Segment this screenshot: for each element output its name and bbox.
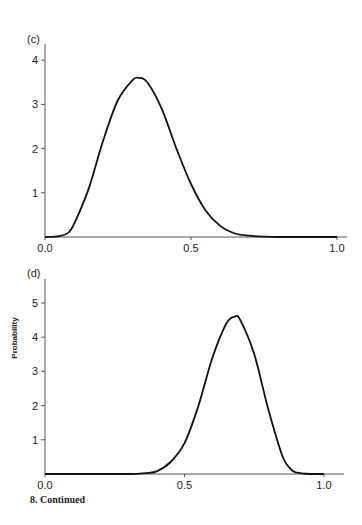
figure: (c) 1234 0.00.51.0 (d) Probability 12345…	[0, 0, 362, 525]
x-tick-label: 1.0	[316, 479, 331, 491]
y-tick-label: 2	[32, 143, 38, 155]
y-tick-label: 4	[32, 331, 38, 343]
y-tick-label: 2	[32, 400, 38, 412]
y-tick-label: 3	[32, 365, 38, 377]
y-axis-label: Probability	[10, 317, 19, 359]
y-ticks-c: 1234	[32, 54, 45, 199]
x-tick-label: 0.0	[37, 242, 52, 254]
x-ticks-d: 0.00.51.0	[37, 474, 331, 491]
x-ticks-c: 0.00.51.0	[37, 237, 344, 254]
y-tick-label: 4	[32, 54, 38, 66]
y-ticks-d: 12345	[32, 297, 45, 446]
y-tick-label: 5	[32, 297, 38, 309]
density-curve-c	[45, 77, 337, 237]
figure-caption: 8. Continued	[30, 494, 85, 505]
x-tick-label: 0.5	[177, 479, 192, 491]
chart-panel-c: (c) 1234 0.00.51.0	[27, 33, 347, 254]
density-curve-d	[45, 316, 324, 474]
x-tick-label: 0.5	[183, 242, 198, 254]
panel-label-d: (d)	[27, 267, 40, 279]
y-tick-label: 1	[32, 434, 38, 446]
chart-panel-d: (d) Probability 12345 0.00.51.0	[10, 267, 344, 491]
panel-label-c: (c)	[27, 33, 40, 45]
y-tick-label: 1	[32, 187, 38, 199]
y-tick-label: 3	[32, 98, 38, 110]
x-tick-label: 1.0	[329, 242, 344, 254]
x-tick-label: 0.0	[37, 479, 52, 491]
